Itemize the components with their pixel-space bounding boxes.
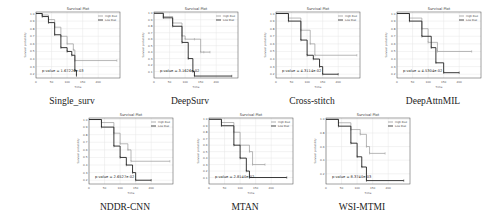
panel-caption: WSI-MTMI: [302, 202, 422, 212]
svg-text:0.5: 0.5: [391, 49, 396, 53]
svg-text:Low Risk: Low Risk: [223, 19, 235, 22]
svg-text:0.6: 0.6: [391, 42, 396, 46]
svg-text:50: 50: [168, 80, 172, 84]
svg-text:0.7: 0.7: [30, 34, 35, 38]
svg-text:0.8: 0.8: [30, 27, 35, 31]
svg-text:200: 200: [336, 80, 342, 84]
svg-text:0.6: 0.6: [203, 143, 208, 147]
svg-text:50: 50: [103, 186, 107, 190]
svg-text:200: 200: [96, 80, 102, 84]
svg-text:0.9: 0.9: [203, 124, 208, 128]
survival-plot: 0501001502000.20.30.40.50.60.70.80.91.0S…: [75, 110, 175, 196]
svg-text:150: 150: [133, 186, 139, 190]
svg-text:100: 100: [304, 80, 310, 84]
p-value-label: p-value = 2.6527e-02: [95, 175, 134, 179]
svg-text:0.3: 0.3: [270, 65, 275, 69]
km-curve-low-risk: [209, 119, 287, 177]
svg-text:0.2: 0.2: [391, 72, 396, 76]
svg-text:0.7: 0.7: [148, 31, 153, 35]
svg-text:High Risk: High Risk: [395, 121, 408, 124]
panel-caption: Cross-stitch: [252, 96, 372, 106]
svg-text:1.0: 1.0: [148, 11, 153, 15]
svg-text:1.0: 1.0: [391, 12, 396, 16]
svg-text:100: 100: [425, 80, 431, 84]
p-value-label: p-value = 1.67226e-03: [42, 69, 84, 73]
svg-text:200: 200: [386, 186, 392, 190]
svg-text:1.0: 1.0: [83, 118, 88, 122]
svg-text:Low Risk: Low Risk: [466, 19, 478, 22]
svg-text:Survival Plot: Survival Plot: [120, 113, 143, 117]
svg-text:Survival probability: Survival probability: [142, 32, 145, 58]
svg-text:0.6: 0.6: [30, 42, 35, 46]
svg-text:0.1: 0.1: [148, 70, 153, 74]
svg-text:Survival probability: Survival probability: [314, 138, 317, 164]
svg-text:Survival Plot: Survival Plot: [185, 7, 208, 11]
svg-text:0.6: 0.6: [320, 145, 325, 149]
svg-text:High Risk: High Risk: [466, 15, 479, 18]
svg-text:Time: Time: [314, 85, 322, 89]
svg-text:0.5: 0.5: [270, 49, 275, 53]
svg-text:0.9: 0.9: [83, 125, 88, 129]
svg-text:0.6: 0.6: [270, 42, 275, 46]
p-value-label: p-value = 3.1626e-02: [160, 69, 199, 73]
svg-text:Time: Time: [435, 85, 443, 89]
svg-text:0: 0: [396, 80, 398, 84]
survival-plot: 0501001502000.10.20.30.40.50.60.70.80.91…: [140, 4, 240, 90]
svg-text:200: 200: [457, 80, 463, 84]
p-value-label: p-value = 8.3740e-03: [332, 175, 371, 179]
svg-text:0.2: 0.2: [30, 72, 35, 76]
svg-text:Survival Plot: Survival Plot: [307, 7, 330, 11]
svg-text:1.0: 1.0: [30, 12, 35, 16]
svg-text:100: 100: [64, 80, 70, 84]
svg-text:Time: Time: [192, 85, 200, 89]
svg-text:Time: Time: [127, 191, 135, 195]
svg-text:0.6: 0.6: [148, 37, 153, 41]
svg-text:100: 100: [117, 186, 123, 190]
p-value-label: p-value = 4.3114e-02: [282, 69, 321, 73]
km-panel-cross-stitch: 0501001502000.20.30.40.50.60.70.80.91.0S…: [262, 4, 362, 94]
km-panel-wsi-mtmi: 0501001502000.20.40.60.81.0Survival Plot…: [312, 110, 412, 200]
svg-text:0.4: 0.4: [203, 156, 208, 160]
svg-text:50: 50: [340, 186, 344, 190]
svg-text:0.8: 0.8: [320, 131, 325, 135]
svg-text:0.3: 0.3: [391, 65, 396, 69]
survival-plot: 0501001502000.20.40.60.81.0Survival Plot…: [312, 110, 412, 196]
svg-text:0.2: 0.2: [320, 172, 325, 176]
svg-text:100: 100: [354, 186, 360, 190]
svg-text:0.7: 0.7: [270, 34, 275, 38]
svg-text:0: 0: [153, 80, 155, 84]
svg-text:0.8: 0.8: [203, 130, 208, 134]
svg-text:0.3: 0.3: [30, 65, 35, 69]
km-curve-low-risk: [154, 13, 232, 76]
svg-text:Time: Time: [364, 191, 372, 195]
svg-text:50: 50: [411, 80, 415, 84]
svg-text:Time: Time: [247, 191, 255, 195]
panel-caption: NDDR-CNN: [65, 202, 185, 212]
svg-text:0: 0: [208, 186, 210, 190]
svg-text:150: 150: [253, 186, 259, 190]
svg-text:0.5: 0.5: [203, 150, 208, 154]
svg-text:150: 150: [441, 80, 447, 84]
svg-text:Low Risk: Low Risk: [105, 19, 117, 22]
svg-text:150: 150: [198, 80, 204, 84]
km-panel-deepattnmil: 0501001502000.20.30.40.50.60.70.80.91.0S…: [383, 4, 483, 94]
svg-text:High Risk: High Risk: [105, 15, 118, 18]
panel-caption: DeepAttnMIL: [373, 96, 493, 106]
svg-text:0.5: 0.5: [83, 155, 88, 159]
svg-text:Survival Plot: Survival Plot: [428, 7, 451, 11]
survival-plot: 0501001502000.20.30.40.50.60.70.80.91.0S…: [383, 4, 483, 90]
svg-text:0.9: 0.9: [270, 19, 275, 23]
svg-text:0.9: 0.9: [391, 19, 396, 23]
svg-text:1.0: 1.0: [320, 117, 325, 121]
survival-plot: 0501001502000.20.30.40.50.60.70.80.91.0S…: [22, 4, 122, 90]
svg-text:100: 100: [182, 80, 188, 84]
svg-text:Survival probability: Survival probability: [24, 32, 27, 58]
svg-text:Low Risk: Low Risk: [158, 125, 170, 128]
svg-text:0.5: 0.5: [148, 44, 153, 48]
svg-text:150: 150: [370, 186, 376, 190]
svg-text:0.2: 0.2: [270, 72, 275, 76]
svg-text:0: 0: [275, 80, 277, 84]
svg-text:Survival probability: Survival probability: [77, 138, 80, 164]
svg-text:1.0: 1.0: [203, 117, 208, 121]
svg-text:150: 150: [320, 80, 326, 84]
